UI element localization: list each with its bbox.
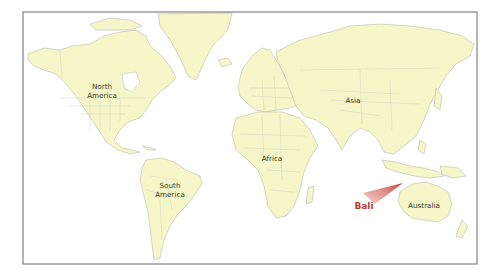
label-south-america: South America xyxy=(155,181,185,199)
label-bali: Bali xyxy=(354,201,373,211)
svg-text:South: South xyxy=(160,181,181,190)
label-australia: Australia xyxy=(408,201,440,210)
svg-text:America: America xyxy=(155,190,185,199)
world-map: North America South America Africa Asia … xyxy=(0,0,503,276)
svg-text:America: America xyxy=(87,91,117,100)
label-africa: Africa xyxy=(262,154,283,163)
label-asia: Asia xyxy=(345,96,360,105)
svg-text:North: North xyxy=(92,82,112,91)
